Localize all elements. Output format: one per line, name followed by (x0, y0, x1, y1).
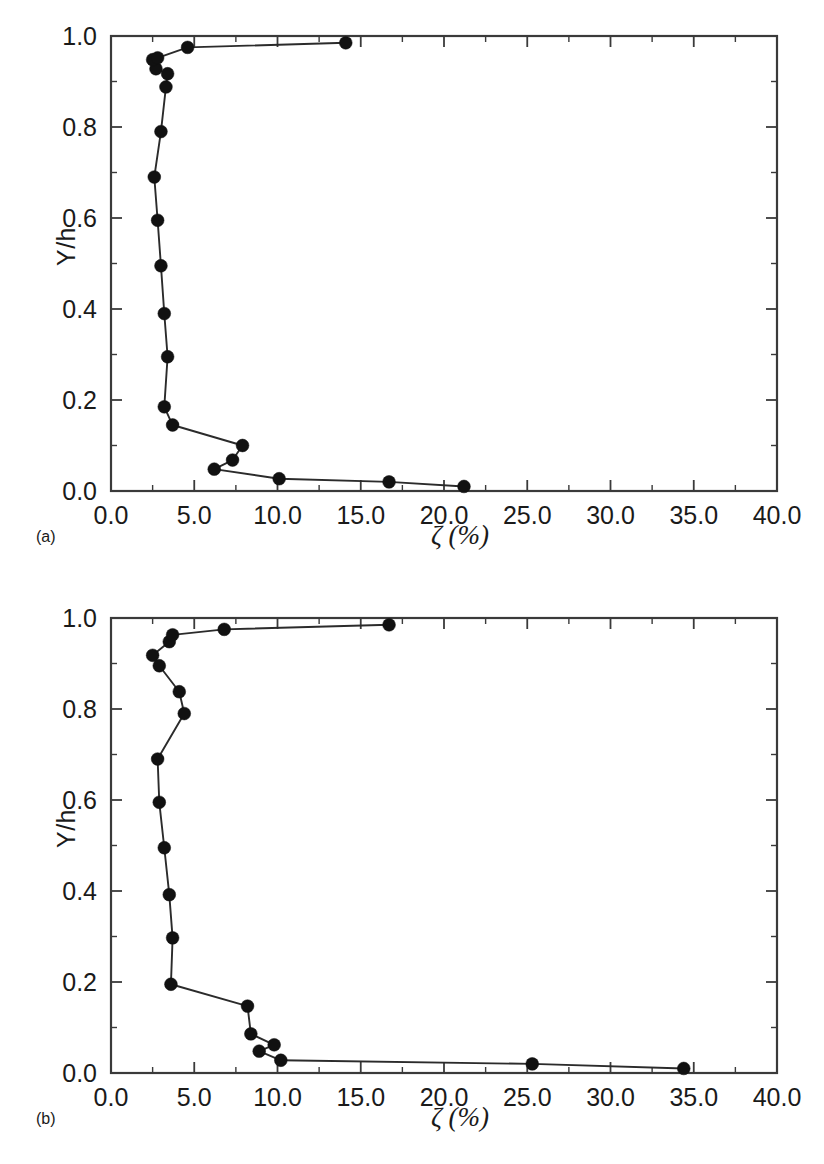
data-point (226, 454, 239, 467)
x-tick-label: 10.0 (253, 1083, 302, 1112)
figure-two-panel-damping-profiles: Y/h ζ (%) (a) 0.05.010.015.020.025.030.0… (0, 0, 824, 1164)
x-tick-label: 0.0 (94, 1083, 129, 1112)
data-point (383, 476, 396, 489)
y-tick-label: 1.0 (0, 22, 97, 51)
plot-frame (111, 36, 777, 491)
y-tick-label: 0.2 (0, 386, 97, 415)
y-tick-label: 0.0 (0, 1059, 97, 1088)
y-tick-label: 0.8 (0, 113, 97, 142)
data-point (274, 1054, 287, 1067)
y-tick-label: 0.0 (0, 477, 97, 506)
x-tick-label: 20.0 (420, 501, 469, 530)
data-point (163, 888, 176, 901)
data-point (161, 350, 174, 363)
data-point (165, 978, 178, 991)
data-point (155, 259, 168, 272)
x-tick-label: 15.0 (336, 501, 385, 530)
x-tick-label: 0.0 (94, 501, 129, 530)
data-point (146, 649, 159, 662)
data-point (241, 1000, 254, 1013)
x-tick-label: 30.0 (586, 501, 635, 530)
data-point (218, 623, 231, 636)
data-point (677, 1062, 690, 1075)
x-tick-label: 35.0 (669, 1083, 718, 1112)
x-tick-label: 5.0 (177, 1083, 212, 1112)
y-tick-label: 0.8 (0, 695, 97, 724)
data-point (383, 618, 396, 631)
data-point (273, 472, 286, 485)
plot-area-b (0, 582, 824, 1164)
data-point (166, 628, 179, 641)
panel-label-b: (b) (36, 1110, 56, 1128)
y-tick-label: 0.4 (0, 295, 97, 324)
data-point (178, 707, 191, 720)
x-tick-label: 5.0 (177, 501, 212, 530)
panel-label-a: (a) (36, 528, 56, 546)
x-tick-label: 15.0 (336, 1083, 385, 1112)
plot-area-a (0, 0, 824, 582)
data-point (151, 214, 164, 227)
data-point (253, 1045, 266, 1058)
x-tick-label: 40.0 (753, 501, 802, 530)
data-point (339, 36, 352, 49)
y-tick-label: 0.6 (0, 786, 97, 815)
y-tick-label: 0.6 (0, 204, 97, 233)
data-line (153, 43, 464, 487)
x-tick-label: 30.0 (586, 1083, 635, 1112)
x-tick-label: 20.0 (420, 1083, 469, 1112)
data-point (160, 81, 173, 94)
x-tick-label: 35.0 (669, 501, 718, 530)
data-point (158, 400, 171, 413)
data-point (458, 480, 471, 493)
y-tick-label: 0.2 (0, 968, 97, 997)
data-point (153, 796, 166, 809)
data-point (151, 51, 164, 64)
plot-frame (111, 618, 777, 1073)
x-tick-label: 10.0 (253, 501, 302, 530)
data-point (181, 41, 194, 54)
data-point (526, 1058, 539, 1071)
panel-a: Y/h ζ (%) (a) 0.05.010.015.020.025.030.0… (0, 0, 824, 582)
data-line (153, 625, 684, 1069)
data-point (166, 419, 179, 432)
x-tick-label: 25.0 (503, 1083, 552, 1112)
data-point (158, 307, 171, 320)
data-point (244, 1027, 257, 1040)
y-tick-label: 0.4 (0, 877, 97, 906)
data-point (155, 125, 168, 138)
data-point (208, 463, 221, 476)
x-tick-label: 40.0 (753, 1083, 802, 1112)
data-point (148, 171, 161, 184)
data-point (158, 841, 171, 854)
data-point (173, 685, 186, 698)
data-point (161, 67, 174, 80)
panel-b: Y/h ζ (%) (b) 0.05.010.015.020.025.030.0… (0, 582, 824, 1164)
x-tick-label: 25.0 (503, 501, 552, 530)
data-point (236, 439, 249, 452)
data-point (166, 931, 179, 944)
data-point (268, 1038, 281, 1051)
data-point (151, 753, 164, 766)
y-tick-label: 1.0 (0, 604, 97, 633)
